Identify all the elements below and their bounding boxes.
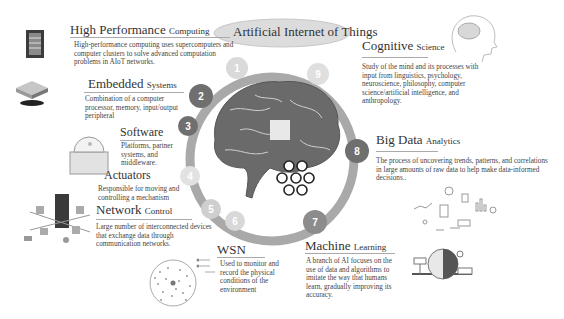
ring-node-7[interactable]: 7 <box>303 210 327 234</box>
ring-node-5[interactable]: 5 <box>201 199 221 219</box>
network-title-main: Network <box>96 202 142 217</box>
wsn-title: WSN <box>217 242 246 258</box>
ml-title-small: Learning <box>354 242 386 252</box>
hpc-desc: High-performance computing uses supercom… <box>74 41 239 67</box>
svg-text:9: 9 <box>315 69 321 80</box>
hpc-title-main: High Performance <box>70 22 166 37</box>
network-city-icon <box>24 194 90 243</box>
bigdata-title: Big Data Analytics <box>376 132 460 148</box>
ml-title-main: Machine <box>305 238 350 253</box>
svg-text:5: 5 <box>208 204 214 215</box>
svg-text:8: 8 <box>354 146 360 157</box>
svg-text:2: 2 <box>198 91 204 102</box>
cognitive-title: Cognitive Science <box>362 38 445 54</box>
embedded-rule <box>84 92 184 93</box>
cognitive-desc: Study of the mind and its processes with… <box>362 63 494 106</box>
software-box-icon <box>70 137 108 174</box>
hpc-title-small: Computing <box>169 26 210 36</box>
ring-node-2[interactable]: 2 <box>189 84 213 108</box>
actuators-title: Actuators <box>104 168 151 183</box>
head-brain-icon <box>452 16 497 62</box>
wsn-rule <box>217 257 265 258</box>
network-desc: Large number of interconnected devices t… <box>96 223 216 249</box>
bigdata-rule <box>376 151 438 152</box>
embedded-title-small: Systems <box>147 80 177 90</box>
wsn-title-main: WSN <box>217 242 246 257</box>
software-desc: Platforms, partner systems, and middlewa… <box>121 142 181 168</box>
wsn-desc: Used to monitor and record the physical … <box>220 260 290 294</box>
network-title: Network Control <box>96 202 172 218</box>
cognitive-title-small: Science <box>417 42 445 52</box>
page-title: Artificial Internet of Things <box>233 24 378 40</box>
ring-node-4[interactable]: 4 <box>180 166 200 186</box>
bigdata-desc: The process of uncovering trends, patter… <box>376 157 552 183</box>
ring-node-9[interactable]: 9 <box>307 63 329 85</box>
ml-brain-icon <box>412 249 472 279</box>
server-rack-icon <box>26 30 44 58</box>
sensor-network-icon <box>150 259 215 307</box>
svg-text:7: 7 <box>312 217 318 228</box>
hpc-title: High Performance Computing <box>70 22 209 38</box>
chip-icon <box>16 81 48 106</box>
svg-text:6: 6 <box>232 216 238 227</box>
svg-text:3: 3 <box>185 121 191 132</box>
analytics-icon <box>414 187 496 230</box>
actuators-desc: Responsible for moving and controlling a… <box>98 185 190 202</box>
ring-node-6[interactable]: 6 <box>225 211 245 231</box>
ml-title: Machine Learning <box>305 238 386 254</box>
bigdata-title-main: Big Data <box>376 132 423 147</box>
ring-node-8[interactable]: 8 <box>345 139 369 163</box>
svg-text:4: 4 <box>187 171 193 182</box>
software-title: Software <box>120 125 163 140</box>
embedded-title-main: Embedded <box>88 76 144 91</box>
ml-desc: A branch of AI focuses on the use of dat… <box>306 257 398 300</box>
embedded-title: Embedded Systems <box>88 76 177 92</box>
network-title-small: Control <box>145 206 173 216</box>
network-rule <box>96 219 192 220</box>
bigdata-title-small: Analytics <box>426 136 461 146</box>
embedded-desc: Combination of a computer processor, mem… <box>85 95 187 121</box>
software-title-main: Software <box>120 125 163 139</box>
cognitive-rule <box>362 57 428 58</box>
software-rule <box>120 140 162 141</box>
hpc-rule <box>70 37 230 38</box>
ml-rule <box>305 253 395 254</box>
cognitive-title-main: Cognitive <box>362 38 413 53</box>
actuators-title-main: Actuators <box>104 168 151 182</box>
